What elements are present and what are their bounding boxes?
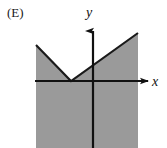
shaded-region xyxy=(36,33,138,148)
figure-panel: (E) y x xyxy=(0,0,167,148)
y-axis-label: y xyxy=(86,5,92,21)
graph-canvas xyxy=(0,0,167,148)
x-axis-label: x xyxy=(152,74,158,90)
